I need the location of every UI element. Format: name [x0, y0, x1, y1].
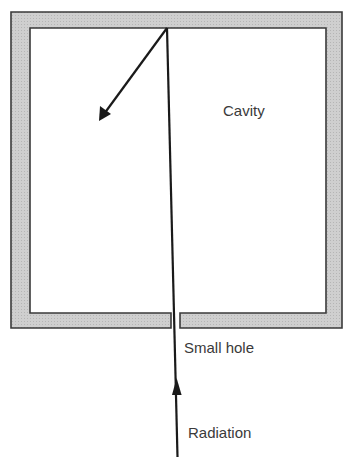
radiation-label: Radiation	[188, 424, 251, 441]
wall-left-part	[11, 12, 342, 328]
cavity-label: Cavity	[223, 102, 265, 119]
arrowhead-up-icon	[172, 378, 182, 395]
incident-ray	[167, 28, 182, 457]
hole-label: Small hole	[184, 339, 254, 356]
cavity-wall	[11, 12, 342, 328]
reflected-ray	[99, 28, 167, 121]
cavity-diagram: Cavity Small hole Radiation	[0, 0, 346, 470]
